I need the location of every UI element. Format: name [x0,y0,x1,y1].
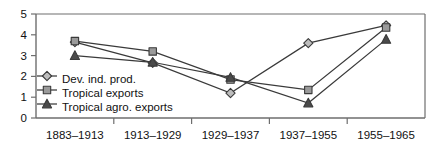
legend-marker-square-icon [43,86,50,93]
x-label-2: 1929–1937 [202,129,260,141]
data-point-marker [71,37,78,44]
data-point-marker [382,24,389,31]
x-label-4: 1955–1965 [357,129,415,141]
legend-label-tropical-agro-exports: Tropical agro. exports [62,101,173,113]
chart-container: 5 4 3 2 1 0 Dev. ind. prod. Tropical exp… [0,0,438,146]
y-tick-label-0: 0 [21,112,27,124]
data-point-marker [305,86,312,93]
data-point-marker [149,48,156,55]
y-tick-label-4: 4 [21,29,28,41]
y-tick-label-2: 2 [21,70,27,82]
x-label-3: 1937–1955 [280,129,338,141]
y-tick-label-5: 5 [21,8,27,20]
y-tick-label-1: 1 [21,91,27,103]
y-tick-label-3: 3 [21,50,27,62]
line-chart: 5 4 3 2 1 0 Dev. ind. prod. Tropical exp… [0,0,438,146]
x-axis-category-labels: 1883–1913 1913–1929 1929–1937 1937–1955 … [46,129,415,141]
x-label-0: 1883–1913 [46,129,104,141]
x-label-1: 1913–1929 [124,129,182,141]
legend-label-tropical-exports: Tropical exports [62,87,144,99]
legend-label-dev-ind-prod: Dev. ind. prod. [62,73,136,85]
